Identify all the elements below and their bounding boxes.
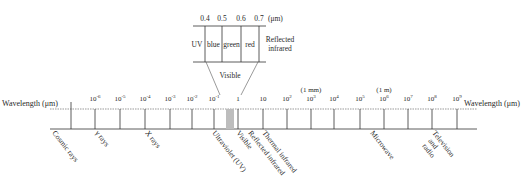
- inset-scale-0.7: 0.7: [254, 14, 264, 23]
- inset-scale-0.6: 0.6: [236, 14, 246, 23]
- inset-region-green: green: [223, 40, 240, 49]
- tick-labels: 10-610-510-410-310-210-11101021031041051…: [89, 94, 462, 103]
- tick-label: 103: [306, 94, 316, 103]
- inset-unit: (μm): [268, 14, 283, 23]
- tick-annotation: (1 mm): [301, 86, 322, 94]
- inset-reflected-infrared-line2: infrared: [268, 44, 292, 53]
- tick-label: 108: [427, 94, 437, 103]
- tick-label: 10-4: [139, 94, 151, 103]
- tick-label: 105: [355, 94, 365, 103]
- inset-region-blue: blue: [207, 40, 221, 49]
- axis-title-left: Wavelength (μm): [2, 99, 58, 108]
- tick-label: 10-2: [186, 94, 198, 103]
- electromagnetic-spectrum-diagram: 0.4 0.5 0.6 0.7 (μm) UV blue green red R…: [0, 0, 529, 182]
- inset-region-red: red: [245, 40, 255, 49]
- visible-spectrum-inset: 0.4 0.5 0.6 0.7 (μm) UV blue green red R…: [192, 14, 295, 95]
- band-label: Microwave: [368, 129, 397, 162]
- tick-label: 10-6: [89, 94, 101, 103]
- tick-label: 10: [260, 95, 268, 103]
- tick-label: 1: [236, 95, 240, 103]
- tick-label: 107: [403, 94, 413, 103]
- inset-scale-0.4: 0.4: [200, 14, 210, 23]
- funnel-left-line: [206, 62, 220, 95]
- band-label: γ rays: [93, 128, 112, 148]
- inset-scale-0.5: 0.5: [217, 14, 227, 23]
- tick-label: 104: [329, 94, 339, 103]
- tick-lines: [95, 109, 457, 129]
- inset-reflected-infrared-line1: Reflected: [266, 35, 295, 44]
- tick-label: 109: [452, 94, 462, 103]
- tick-label: 10-3: [164, 94, 176, 103]
- tick-label: 102: [282, 94, 292, 103]
- tick-annotation: (1 m): [376, 86, 392, 94]
- tick-label: 10-1: [208, 94, 220, 103]
- inset-caption-visible: Visible: [219, 71, 241, 80]
- band-label: Cosmic rays: [50, 129, 80, 164]
- tick-label: 106: [379, 94, 389, 103]
- funnel-right-line: [241, 62, 258, 95]
- tick-annotations: (1 mm)(1 m): [301, 86, 393, 94]
- tick-label: 10-5: [114, 94, 126, 103]
- visible-band-shading: [226, 109, 234, 129]
- band-labels: Cosmic raysγ raysX raysUltraviolet (UV)V…: [50, 128, 456, 177]
- band-label: X rays: [143, 129, 162, 150]
- wavelength-axis: 10-610-510-410-310-210-11101021031041051…: [2, 86, 520, 129]
- inset-region-uv: UV: [192, 40, 203, 49]
- axis-title-right: Wavelength (μm): [464, 99, 520, 108]
